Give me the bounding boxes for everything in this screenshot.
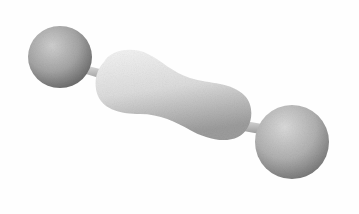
right-sphere [255,105,329,179]
left-sphere [28,26,92,88]
dumbbell-render [0,0,359,214]
central-body [96,50,252,140]
rendered-scene: 3D rendered grey dumbbell-shaped object:… [0,0,359,214]
